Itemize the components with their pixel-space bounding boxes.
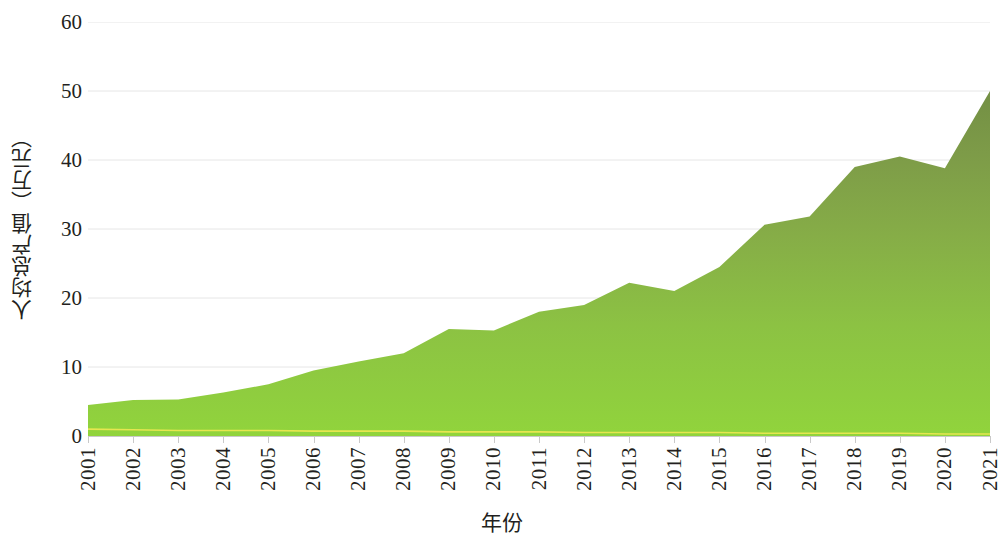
x-axis-tick-label: 2016 <box>752 447 778 491</box>
y-axis-title-text: 人均总产值（万元） <box>13 126 34 320</box>
x-axis-tick-label: 2015 <box>706 447 732 491</box>
x-axis-tick-label-text: 2002 <box>123 447 144 491</box>
y-axis-tick-label: 10 <box>61 357 82 378</box>
x-axis-tick-label-text: 2006 <box>303 447 324 491</box>
x-axis-tick-label: 2017 <box>797 447 823 491</box>
x-axis-tick-label-text: 2020 <box>934 447 955 491</box>
x-axis-tick-label-text: 2008 <box>393 447 414 491</box>
x-axis-tick-label-text: 2016 <box>754 447 775 491</box>
y-axis-tick-label: 50 <box>61 81 82 102</box>
x-axis-tick-label: 2005 <box>255 447 281 491</box>
y-axis-title: 人均总产值（万元） <box>0 0 46 446</box>
x-axis-tick-label-text: 2014 <box>664 447 685 491</box>
x-axis-tick-mark <box>314 436 315 443</box>
x-axis-tick-mark <box>990 436 991 443</box>
x-axis-tick-mark <box>178 436 179 443</box>
x-axis-tick-label: 2020 <box>932 447 958 491</box>
x-axis-tick-mark <box>359 436 360 443</box>
area-chart: 人均总产值（万元） 0102030405060 2001200220032004 <box>0 0 1004 546</box>
y-axis-tick-label: 0 <box>72 426 83 447</box>
x-axis-tick-mark <box>88 436 89 443</box>
y-axis-tick-label: 20 <box>61 288 82 309</box>
x-axis-tick-label: 2012 <box>571 447 597 491</box>
x-axis-tick-label: 2003 <box>165 447 191 491</box>
x-axis-tick-label-text: 2015 <box>709 447 730 491</box>
x-axis-tick-label-text: 2019 <box>889 447 910 491</box>
x-axis-tick-label-text: 2012 <box>574 447 595 491</box>
y-axis-tick-label: 40 <box>61 150 82 171</box>
x-axis-tick-label: 2002 <box>120 447 146 491</box>
x-axis-tick-label: 2009 <box>436 447 462 491</box>
x-axis-tick-label: 2019 <box>887 447 913 491</box>
x-axis-tick-label: 2010 <box>481 447 507 491</box>
x-axis-tick-mark <box>584 436 585 443</box>
x-axis-tick-label-text: 2005 <box>258 447 279 491</box>
x-axis-tick-label: 2001 <box>75 447 101 491</box>
x-axis-tick-label-text: 2007 <box>348 447 369 491</box>
x-axis-tick-mark <box>133 436 134 443</box>
x-axis-tick-label: 2013 <box>616 447 642 491</box>
x-axis-tick-mark <box>719 436 720 443</box>
y-axis-tick-labels: 0102030405060 <box>44 0 82 446</box>
x-axis-tick-mark <box>674 436 675 443</box>
x-axis-tick-mark <box>404 436 405 443</box>
x-axis-tick-label-text: 2013 <box>619 447 640 491</box>
x-axis-tick-label-text: 2001 <box>78 447 99 491</box>
x-axis-tick-mark <box>268 436 269 443</box>
x-axis-tick-label-text: 2003 <box>168 447 189 491</box>
x-axis-tick-label: 2004 <box>210 447 236 491</box>
x-axis-tick-labels: 2001200220032004200520062007200820092010… <box>88 445 991 513</box>
x-axis-tick-mark <box>539 436 540 443</box>
x-axis-tick-mark <box>223 436 224 443</box>
x-axis-tick-label: 2008 <box>391 447 417 491</box>
plot-svg <box>88 22 990 436</box>
x-axis-tick-mark <box>494 436 495 443</box>
y-axis-tick-label: 30 <box>61 219 82 240</box>
area-series-path <box>88 91 990 436</box>
x-axis-tick-label: 2011 <box>526 447 552 490</box>
x-axis-tick-mark <box>810 436 811 443</box>
x-axis-tick-label-text: 2004 <box>213 447 234 491</box>
x-axis-tick-label-text: 2017 <box>799 447 820 491</box>
x-axis-tick-label: 2006 <box>301 447 327 491</box>
x-axis-tick-label: 2007 <box>346 447 372 491</box>
x-axis-tick-mark <box>855 436 856 443</box>
x-axis-tick-label-text: 2011 <box>529 447 550 490</box>
x-axis-tick-label-text: 2021 <box>980 447 1001 491</box>
x-axis-tick-label-text: 2009 <box>438 447 459 491</box>
y-axis-tick-label: 60 <box>61 12 82 33</box>
x-axis-tick-label-text: 2010 <box>483 447 504 491</box>
x-axis-tick-label: 2021 <box>977 447 1003 491</box>
x-axis-title: 年份 <box>0 512 1004 535</box>
x-axis-tick-label-text: 2018 <box>844 447 865 491</box>
x-axis-tick-label: 2018 <box>842 447 868 491</box>
x-axis-tick-mark <box>900 436 901 443</box>
plot-area <box>88 22 990 436</box>
x-axis-tick-mark <box>765 436 766 443</box>
x-axis-tick-mark <box>629 436 630 443</box>
x-axis-tick-mark <box>945 436 946 443</box>
x-axis-tick-marks <box>88 436 991 443</box>
x-axis-tick-label: 2014 <box>661 447 687 491</box>
x-axis-tick-mark <box>449 436 450 443</box>
